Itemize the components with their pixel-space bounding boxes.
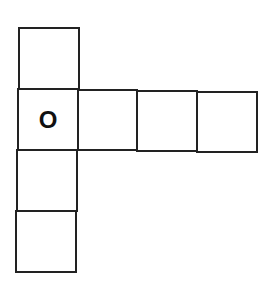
net-cell-lower-2 — [15, 210, 77, 273]
net-cell-row-2 — [77, 89, 138, 151]
net-cell-row-4 — [196, 91, 258, 153]
net-cell-row-3 — [136, 90, 198, 152]
net-cell-top — [18, 27, 80, 90]
net-cell-marked: O — [17, 88, 79, 151]
cell-label-o: O — [19, 106, 77, 134]
net-cell-lower-1 — [16, 149, 78, 212]
